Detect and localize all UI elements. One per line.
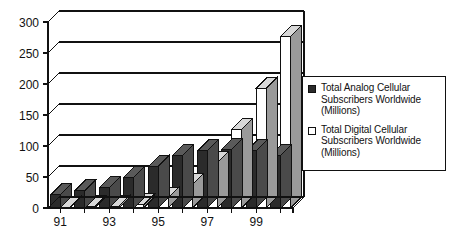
chart-figure: 050100150200250300 9193959799 Total Anal… xyxy=(0,0,456,246)
legend-swatch-digital-icon xyxy=(308,127,316,135)
legend-item-digital: Total Digital Cellular Subscribers World… xyxy=(308,124,441,159)
y-tick-label-100: 100 xyxy=(19,140,39,154)
legend-label-analog: Total Analog Cellular Subscribers Worldw… xyxy=(321,82,421,117)
x-tick-label-95: 95 xyxy=(152,215,166,229)
legend-digital-line2: Subscribers Worldwide xyxy=(321,135,421,147)
legend-label-digital: Total Digital Cellular Subscribers World… xyxy=(321,124,421,159)
legend-digital-line1: Total Digital Cellular xyxy=(321,124,421,136)
legend-digital-line3: (Millions) xyxy=(321,147,421,159)
x-tick-label-91: 91 xyxy=(54,215,68,229)
legend-swatch-analog-icon xyxy=(308,85,316,93)
y-tick-label-50: 50 xyxy=(26,171,40,185)
legend-analog-line2: Subscribers Worldwide xyxy=(321,94,421,106)
legend-analog-line1: Total Analog Cellular xyxy=(321,82,421,94)
legend-item-analog: Total Analog Cellular Subscribers Worldw… xyxy=(308,82,441,117)
x-tick-label-99: 99 xyxy=(250,215,264,229)
y-tick-label-200: 200 xyxy=(19,78,39,92)
x-tick-label-97: 97 xyxy=(201,215,215,229)
y-tick-label-0: 0 xyxy=(32,202,39,216)
legend-analog-line3: (Millions) xyxy=(321,105,421,117)
chart-legend: Total Analog Cellular Subscribers Worldw… xyxy=(302,76,446,171)
x-tick-label-93: 93 xyxy=(103,215,117,229)
y-tick-label-250: 250 xyxy=(19,47,39,61)
y-tick-label-300: 300 xyxy=(19,16,39,30)
y-tick-label-150: 150 xyxy=(19,109,39,123)
